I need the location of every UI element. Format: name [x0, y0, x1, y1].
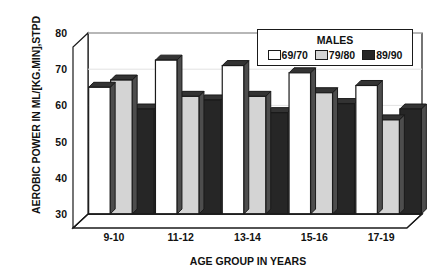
- legend-item-label: 69/70: [282, 49, 308, 61]
- x-axis-tick-label: 17-19: [368, 231, 395, 243]
- x-axis-tick-label: 15-16: [301, 231, 328, 243]
- legend-title: MALES: [258, 33, 412, 47]
- x-axis-tick-label: 11-12: [168, 231, 194, 243]
- legend-item: 79/80: [315, 49, 355, 61]
- x-axis-title: AGE GROUP IN YEARS: [73, 255, 423, 267]
- legend-item: 89/90: [362, 49, 402, 61]
- legend-items: 69/7079/8089/90: [258, 49, 412, 61]
- bar-chart-figure: AEROBIC POWER IN ML/[KG.MIN],STPD 304050…: [0, 0, 446, 278]
- legend-swatch-icon: [315, 50, 328, 60]
- legend: MALES 69/7079/8089/90: [257, 29, 413, 66]
- x-axis-tick-label: 9-10: [103, 231, 124, 243]
- legend-swatch-icon: [268, 50, 281, 60]
- legend-item: 69/70: [268, 49, 308, 61]
- legend-item-label: 89/90: [376, 49, 402, 61]
- x-axis-tick-label: 13-14: [234, 231, 261, 243]
- legend-swatch-icon: [362, 50, 375, 60]
- legend-item-label: 79/80: [329, 49, 355, 61]
